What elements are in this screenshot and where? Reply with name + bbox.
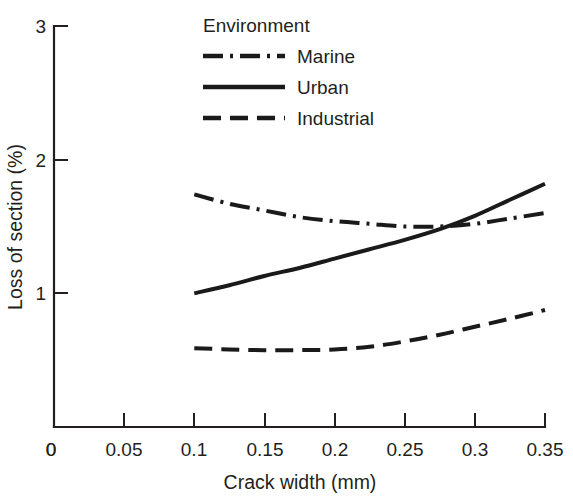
series-line-urban [194, 184, 545, 294]
y-axis-ticks [54, 26, 68, 293]
y-axis-title: Loss of section (%) [4, 144, 26, 310]
x-tick-label-0.05: 0.05 [106, 439, 143, 460]
x-axis-ticks [124, 413, 545, 427]
y-tick-label-3: 3 [35, 16, 46, 37]
x-tick-label-0.35: 0.35 [527, 439, 564, 460]
x-tick-label-0.25: 0.25 [387, 439, 424, 460]
y-tick-label-2: 2 [35, 150, 46, 171]
series-line-marine [194, 194, 545, 226]
series-group [194, 184, 545, 350]
legend-label-industrial: Industrial [297, 108, 374, 129]
legend-label-urban: Urban [297, 77, 349, 98]
legend-title: Environment [203, 15, 310, 36]
legend: Environment Marine Urban Industrial [203, 15, 374, 129]
x-axis-tick-labels: 0 0.05 0.1 0.15 0.2 0.25 0.3 0.35 [46, 439, 564, 460]
x-axis-title: Crack width (mm) [224, 471, 377, 493]
x-tick-label-0: 0 [46, 439, 57, 460]
x-tick-label-0.1: 0.1 [181, 439, 207, 460]
y-tick-label-1: 1 [35, 283, 46, 304]
series-line-industrial [194, 310, 545, 350]
chart-figure: 3 2 1 0 0 0.05 0.1 0.15 0.2 0.25 0.3 0.3… [0, 0, 573, 499]
x-tick-label-0.3: 0.3 [462, 439, 488, 460]
legend-label-marine: Marine [297, 46, 355, 67]
x-tick-label-0.2: 0.2 [322, 439, 348, 460]
line-chart: 3 2 1 0 0 0.05 0.1 0.15 0.2 0.25 0.3 0.3… [0, 0, 573, 499]
x-tick-label-0.15: 0.15 [247, 439, 284, 460]
